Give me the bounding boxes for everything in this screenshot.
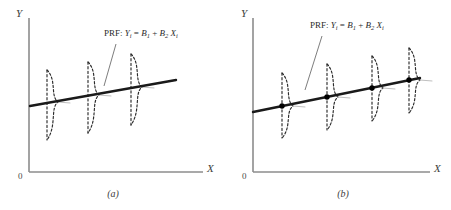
panel-a-x-axis-label: X [207, 163, 214, 174]
panel-b-leader-line [305, 36, 322, 90]
panel-a-prf-intercept-sub: 1 [147, 32, 150, 39]
panel-a-prf-equation: PRF: Yi = B1 + B2 Xi [104, 29, 178, 38]
panel-b-origin-label: 0 [242, 172, 247, 181]
panel-b-distributions [282, 48, 432, 138]
panel-b-prf-slope-sub: 2 [371, 24, 374, 31]
panel-b-prf-prefix: PRF: [310, 20, 329, 30]
panel-a-caption: (a) [93, 189, 133, 199]
panel-b-prf-intercept: B [347, 20, 353, 30]
panel-b-prf-equals: = [340, 20, 345, 30]
panel-b-prf-line [253, 78, 420, 112]
panel-b-plot [225, 0, 451, 210]
panel-a-prf-intercept: B [141, 28, 147, 38]
panel-a-prf-plus: + [152, 28, 157, 38]
panel-a-prf-regressor-sub: i [176, 32, 178, 39]
figure-prf-conditional-distributions: Y X 0 PRF: Yi = B1 + B2 Xi (a) [0, 0, 451, 210]
panel-a-y-axis-label: Y [16, 8, 22, 19]
panel-b-caption: (b) [323, 189, 363, 199]
panel-a: Y X 0 PRF: Yi = B1 + B2 Xi (a) [0, 0, 226, 210]
panel-a-origin-label: 0 [18, 172, 23, 181]
panel-a-prf-response-sub: i [130, 32, 132, 39]
panel-a-distributions [47, 54, 154, 140]
panel-b-x-axis-label: X [434, 163, 441, 174]
panel-a-prf-equals: = [134, 28, 139, 38]
panel-a-axes [29, 18, 203, 172]
panel-a-leader-line [104, 44, 116, 86]
panel-b-prf-equation: PRF: Yi = B1 + B2 Xi [310, 21, 384, 30]
panel-b-prf-plus: + [358, 20, 363, 30]
panel-b-prf-response-sub: i [336, 24, 338, 31]
panel-a-prf-slope-sub: 2 [165, 32, 168, 39]
panel-b-prf-intercept-sub: 1 [353, 24, 356, 31]
panel-a-prf-prefix: PRF: [104, 28, 123, 38]
panel-b-y-axis-label: Y [241, 8, 247, 19]
panel-a-prf-line [30, 80, 176, 106]
panel-b: Y X 0 PRF: Yi = B1 + B2 Xi (b) [225, 0, 451, 210]
panel-b-prf-regressor-sub: i [382, 24, 384, 31]
